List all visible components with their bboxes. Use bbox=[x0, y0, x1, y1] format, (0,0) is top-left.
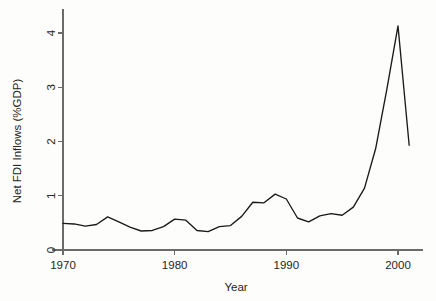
x-tick-label: 1980 bbox=[162, 259, 188, 271]
line-chart: 01234 1970198019902000 Net FDI Inflows (… bbox=[0, 0, 436, 301]
data-series-group bbox=[63, 26, 409, 232]
data-series-line bbox=[63, 26, 409, 232]
y-axis-title: Net FDI Inflows (%GDP) bbox=[11, 79, 23, 204]
chart-figure: 01234 1970198019902000 Net FDI Inflows (… bbox=[0, 0, 436, 301]
x-axis-tick-labels: 1970198019902000 bbox=[50, 259, 411, 271]
y-tick-label: 1 bbox=[45, 193, 57, 199]
y-tick-label: 4 bbox=[45, 29, 57, 36]
y-axis-ticks bbox=[58, 33, 63, 250]
x-tick-label: 1970 bbox=[50, 259, 76, 271]
x-axis-title: Year bbox=[224, 281, 247, 293]
x-tick-label: 2000 bbox=[385, 259, 411, 271]
y-tick-label: 2 bbox=[45, 138, 57, 144]
y-tick-label: 3 bbox=[45, 84, 57, 90]
axes bbox=[52, 9, 423, 250]
x-tick-label: 1990 bbox=[274, 259, 300, 271]
y-axis-tick-labels: 01234 bbox=[45, 29, 57, 253]
y-tick-label: 0 bbox=[45, 247, 57, 253]
x-axis-ticks bbox=[63, 250, 398, 255]
